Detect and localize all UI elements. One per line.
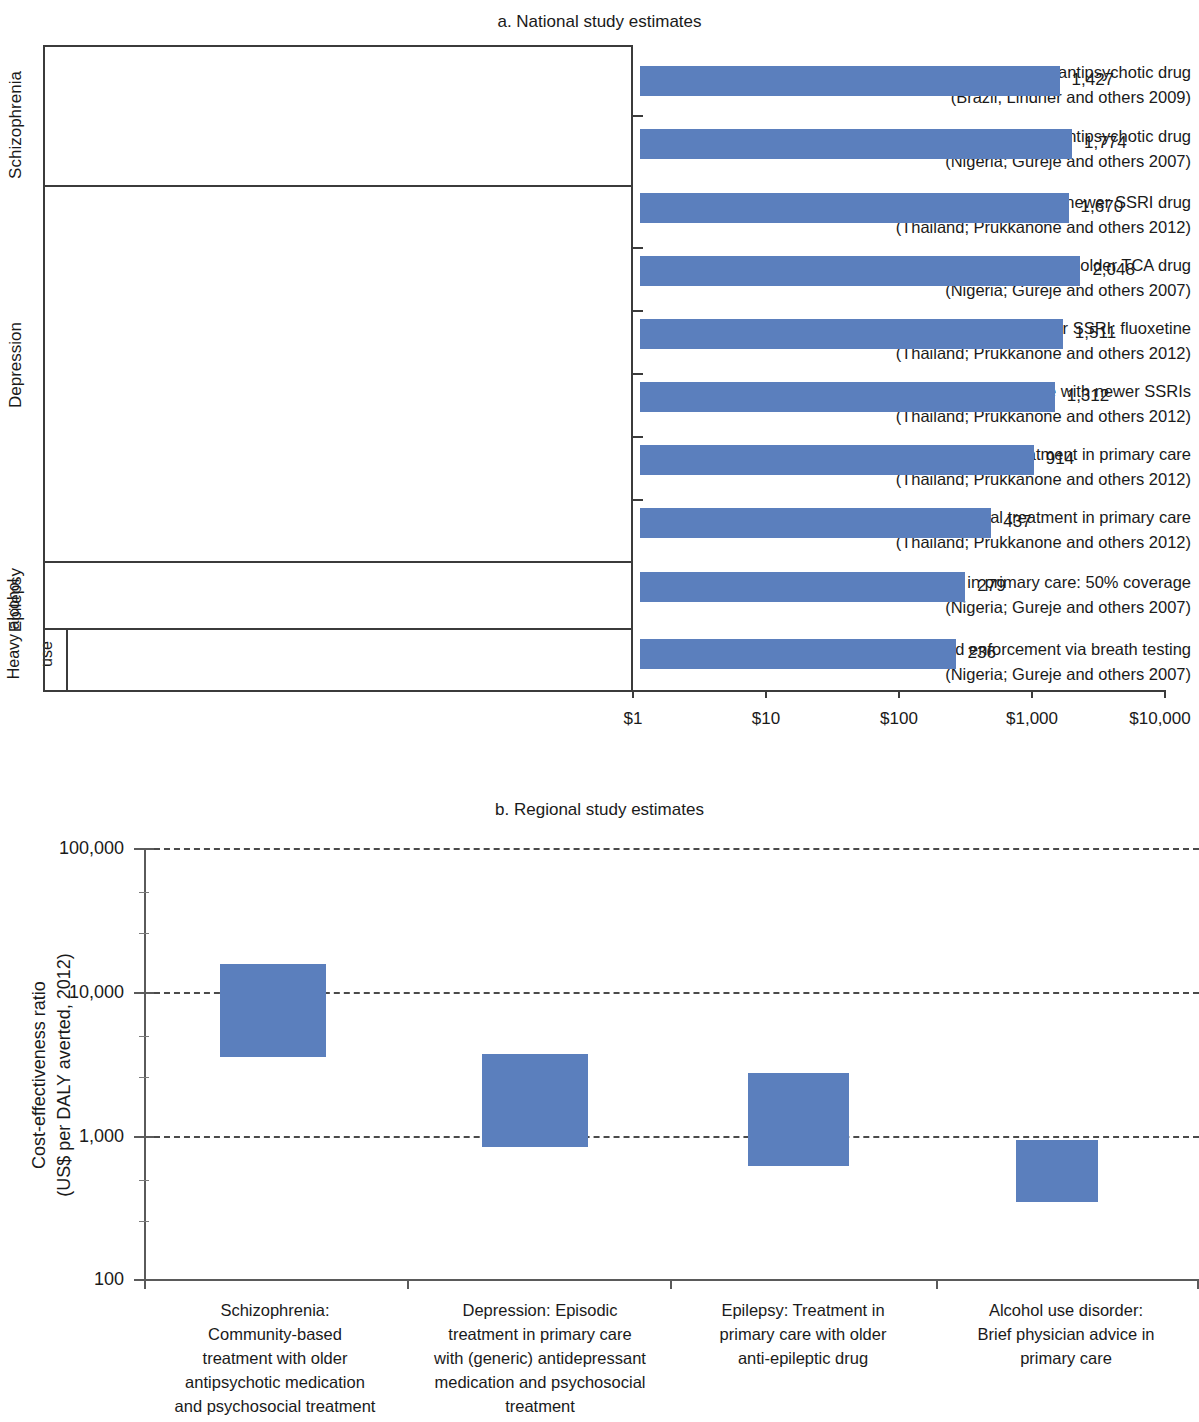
y-minor-tick [139, 892, 149, 893]
x-category-separator [407, 1279, 409, 1289]
alcohol-inner-divider [66, 628, 68, 692]
bar-row-3 [640, 256, 1080, 286]
y-tick-100000 [134, 848, 154, 850]
text-line: anti-epileptic drug [678, 1346, 928, 1370]
row-tick [631, 115, 643, 117]
bar-row-6 [640, 445, 1034, 475]
panel-b-y-axis-line [144, 848, 146, 1280]
panel-a-title: a. National study estimates [0, 12, 1199, 32]
panel-b-y-axis-label: Cost-effectiveness ratio(US$ per DALY av… [27, 875, 77, 1275]
range-box-alcohol [1016, 1140, 1098, 1202]
text-line: Epilepsy: Treatment in [678, 1298, 928, 1322]
row-tick [631, 436, 643, 438]
row-tick [631, 310, 643, 312]
text-line: Alcohol use disorder: [941, 1298, 1191, 1322]
text-line: treatment [406, 1394, 674, 1418]
y-minor-tick [139, 1077, 149, 1078]
text-line: primary care with older [678, 1322, 928, 1346]
x-tick [632, 690, 634, 698]
text-line: (US$ per DALY averted, 2012) [52, 875, 77, 1275]
y-tick-label-10000: 10,000 [69, 982, 124, 1003]
x-category-label-schizophrenia: Schizophrenia:Community-basedtreatment w… [150, 1298, 400, 1418]
range-box-depression [482, 1054, 588, 1147]
y-tick-1000 [134, 1136, 154, 1138]
bar-value-row-2: 1,670 [1081, 197, 1124, 217]
bar-row-0 [640, 66, 1060, 96]
text-line: Community-based [150, 1322, 400, 1346]
x-category-separator [670, 1279, 672, 1289]
y-tick-label-1000: 1,000 [79, 1126, 124, 1147]
x-category-separator [144, 1279, 146, 1289]
bar-row-7 [640, 508, 991, 538]
category-box-left-border [43, 45, 45, 692]
category-rule-top [43, 45, 633, 47]
gridline-1000 [144, 1136, 1199, 1138]
row-tick [631, 499, 643, 501]
y-tick-10000 [134, 992, 154, 994]
bar-value-row-1: 1,774 [1084, 133, 1127, 153]
y-minor-tick [139, 1036, 149, 1037]
text-line: medication and psychosocial [406, 1370, 674, 1394]
text-line: Cost-effectiveness ratio [27, 875, 52, 1275]
text-line: primary care [941, 1346, 1191, 1370]
y-minor-tick [139, 933, 149, 934]
bar-value-row-5: 1,312 [1067, 386, 1110, 406]
bar-row-8 [640, 572, 965, 602]
bar-value-row-3: 2,048 [1092, 260, 1135, 280]
text-line: Schizophrenia: [150, 1298, 400, 1322]
bar-row-4 [640, 319, 1063, 349]
row-tick [631, 247, 643, 249]
y-minor-tick [139, 1221, 149, 1222]
x-tick [1031, 690, 1033, 698]
x-tick [1164, 690, 1166, 698]
bar-row-9 [640, 639, 956, 669]
text-line: treatment with older [150, 1346, 400, 1370]
x-category-separator [936, 1279, 938, 1289]
category-rule-epilepsy-alcohol [43, 628, 633, 630]
y-tick-label-100000: 100,000 [59, 838, 124, 859]
bar-value-row-4: 1,511 [1075, 323, 1116, 343]
bar-row-2 [640, 193, 1069, 223]
gridline-100000 [144, 848, 1199, 850]
panel-a-national-study-estimates: a. National study estimates Schizophreni… [0, 0, 1199, 755]
y-tick-label-100: 100 [94, 1269, 124, 1290]
y-minor-tick [139, 1180, 149, 1181]
group-label-depression: Depression [6, 302, 26, 428]
category-rule-schizophrenia-depression [43, 185, 633, 187]
x-category-label-epilepsy: Epilepsy: Treatment inprimary care with … [678, 1298, 928, 1370]
text-line: treatment in primary care [406, 1322, 674, 1346]
category-rule-depression-epilepsy [43, 561, 633, 563]
panel-b-regional-study-estimates: b. Regional study estimates Cost-effecti… [0, 755, 1199, 1422]
category-rule-bottom [43, 690, 633, 692]
panel-b-title: b. Regional study estimates [0, 800, 1199, 820]
x-category-label-depression: Depression: Episodictreatment in primary… [406, 1298, 674, 1418]
text-line: and psychosocial treatment [150, 1394, 400, 1418]
bar-value-row-0: 1,427 [1072, 70, 1115, 90]
text-line: Brief physician advice in [941, 1322, 1191, 1346]
x-tick [898, 690, 900, 698]
x-tick-label-1000: $1,000 [1006, 709, 1058, 729]
x-tick-label-1: $1 [624, 709, 643, 729]
bar-value-row-8: 279 [977, 576, 1005, 596]
x-category-label-alcohol: Alcohol use disorder:Brief physician adv… [941, 1298, 1191, 1370]
group-label-heavy-alcohol: Heavy alcohol [5, 559, 23, 699]
x-tick-label-10: $10 [752, 709, 780, 729]
text-line: Depression: Episodic [406, 1298, 674, 1322]
group-label-schizophrenia: Schizophrenia [6, 55, 26, 195]
text-line: with (generic) antidepressant [406, 1346, 674, 1370]
row-tick [631, 373, 643, 375]
range-box-schizophrenia [220, 964, 326, 1057]
x-tick [765, 690, 767, 698]
bar-row-1 [640, 129, 1072, 159]
bar-value-row-9: 236 [968, 643, 996, 663]
group-label-use: use [38, 624, 56, 684]
range-box-epilepsy [748, 1073, 849, 1166]
bar-value-row-7: 437 [1003, 512, 1031, 532]
text-line: antipsychotic medication [150, 1370, 400, 1394]
bar-row-5 [640, 382, 1055, 412]
x-tick-label-100: $100 [880, 709, 918, 729]
x-tick-label-10000: $10,000 [1129, 709, 1190, 729]
bar-value-row-6: 914 [1046, 449, 1074, 469]
